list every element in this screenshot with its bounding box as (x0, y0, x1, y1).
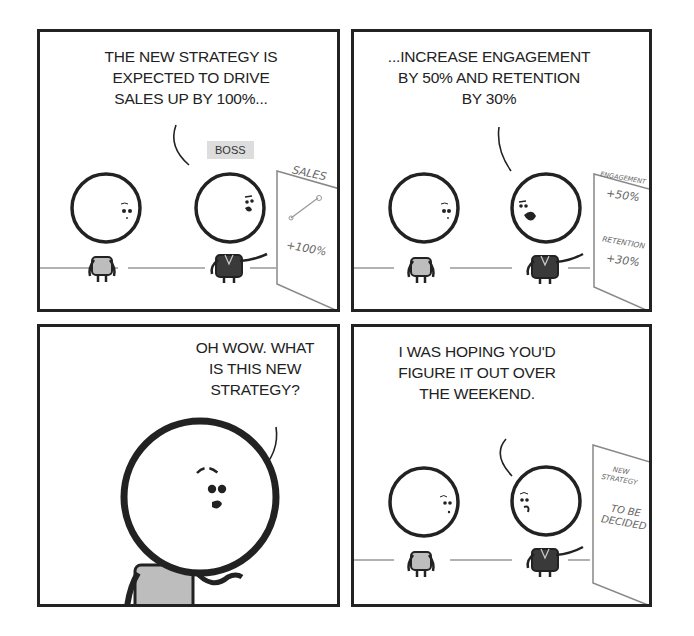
employee-character (390, 468, 458, 577)
speech-tail (174, 125, 189, 165)
speech-tail (499, 127, 512, 171)
comic-panel-2: ...INCREASE ENGAGEMENT BY 50% AND RETENT… (351, 29, 652, 312)
panel-art (40, 327, 340, 607)
employee-character-closeup (124, 421, 276, 607)
comic-panel-3: OH WOW. WHAT IS THIS NEW STRATEGY? (37, 324, 340, 607)
comic-panel-1: THE NEW STRATEGY IS EXPECTED TO DRIVE SA… (37, 29, 340, 312)
speech-tail (500, 439, 512, 476)
comic-panel-4: I WAS HOPING YOU'D FIGURE IT OUT OVER TH… (351, 324, 652, 607)
boss-character (196, 174, 267, 283)
employee-character (390, 174, 458, 283)
employee-character (72, 174, 140, 282)
